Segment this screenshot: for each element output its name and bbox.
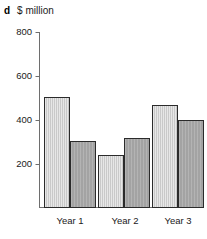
category-label-year-3: Year 3 [152,216,204,226]
bar-year-3-series-2 [178,120,204,208]
bar-year-2-series-2 [124,138,150,208]
category-label-year-2: Year 2 [99,216,151,226]
y-tick-label-600: 600 [6,71,32,81]
plot-area: 800 600 400 200 Year 1 Year 2 Year 3 [0,0,207,239]
bar-year-3-series-1 [152,105,178,208]
bar-year-1-series-1 [44,97,70,208]
bar-chart-figure: d $ million 800 600 400 200 Year 1 Year … [0,0,207,239]
bar-year-1-series-2 [70,141,96,208]
y-tick-label-400: 400 [6,115,32,125]
y-tick-label-200: 200 [6,159,32,169]
category-label-year-1: Year 1 [44,216,96,226]
bar-year-2-series-1 [98,155,124,208]
y-tick-label-800: 800 [6,27,32,37]
